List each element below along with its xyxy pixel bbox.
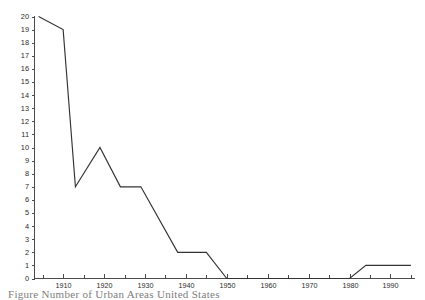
y-tick-label: 16	[21, 64, 29, 73]
y-tick-label: 14	[21, 91, 29, 100]
y-tick-label: 13	[21, 104, 29, 113]
y-tick-label: 3	[25, 235, 29, 244]
y-tick-label: 2	[25, 248, 29, 257]
y-tick-label: 15	[21, 77, 29, 86]
y-tick-label: 11	[21, 130, 29, 139]
y-tick-label: 20	[21, 12, 29, 21]
figure-page: 01234567891011121314151617181920 1910192…	[0, 0, 425, 300]
y-tick-label: 12	[21, 117, 29, 126]
figure-caption: Figure Number of Urban Areas United Stat…	[8, 288, 418, 300]
y-tick-label: 4	[25, 222, 29, 231]
y-tick-label: 5	[25, 208, 29, 217]
y-tick-label: 9	[25, 156, 29, 165]
y-tick-label: 18	[21, 38, 29, 47]
y-tick-label: 6	[25, 195, 29, 204]
chart-axes	[35, 16, 416, 279]
y-tick-label: 17	[21, 51, 29, 60]
y-tick-label: 10	[21, 143, 29, 152]
chart-series-group	[39, 17, 411, 279]
chart-plot-area: 01234567891011121314151617181920 1910192…	[0, 0, 425, 300]
y-tick-label: 19	[21, 25, 29, 34]
y-tick-label: 7	[25, 182, 29, 191]
y-axis-tick-labels: 01234567891011121314151617181920	[21, 12, 29, 283]
y-tick-label: 1	[25, 261, 29, 270]
series-line-count	[39, 17, 411, 279]
y-tick-label: 8	[25, 169, 29, 178]
line-chart-figure: 01234567891011121314151617181920 1910192…	[0, 0, 425, 300]
y-tick-label: 0	[25, 274, 29, 283]
